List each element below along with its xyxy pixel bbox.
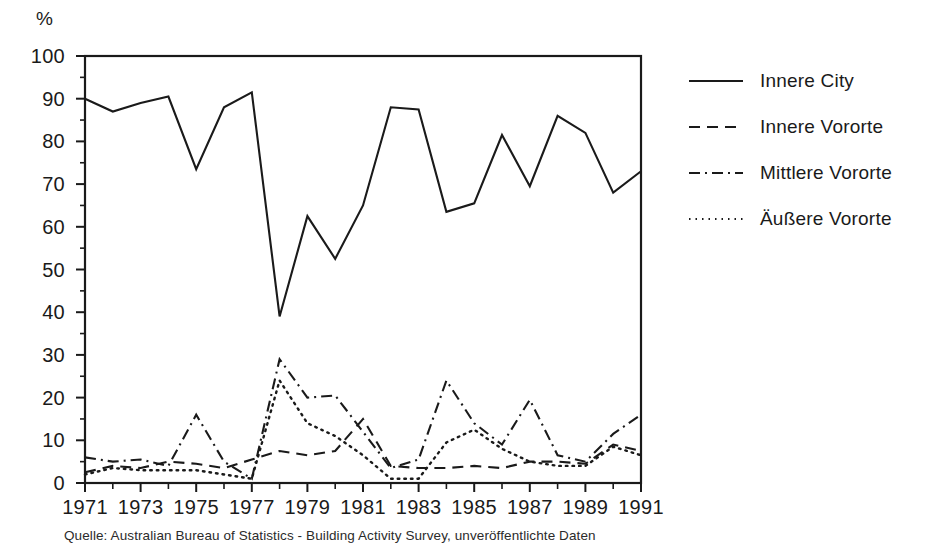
legend-item-aussere-vororte: Äußere Vororte — [688, 196, 924, 242]
y-tick-label: 50 — [9, 258, 65, 281]
chart-legend: Innere City Innere Vororte Mittlere Voro… — [688, 58, 924, 242]
legend-swatch-solid-icon — [688, 74, 744, 88]
legend-swatch-dashed-icon — [688, 120, 744, 134]
legend-item-innere-city: Innere City — [688, 58, 924, 104]
source-note: Quelle: Australian Bureau of Statistics … — [64, 528, 596, 543]
y-tick-label: 10 — [9, 429, 65, 452]
y-tick-label: 60 — [9, 215, 65, 238]
legend-label: Innere Vororte — [760, 116, 883, 138]
y-tick-label: 30 — [9, 343, 65, 366]
legend-swatch-dotted-icon — [688, 212, 744, 226]
legend-item-innere-vororte: Innere Vororte — [688, 104, 924, 150]
legend-item-mittlere-vororte: Mittlere Vororte — [688, 150, 924, 196]
x-tick-label: 1991 — [606, 496, 676, 519]
y-tick-label: 90 — [9, 87, 65, 110]
chart-figure: % 0102030405060708090100 197119731975197… — [0, 0, 929, 554]
y-tick-label: 70 — [9, 173, 65, 196]
legend-label: Innere City — [760, 70, 854, 92]
legend-swatch-dashdot-icon — [688, 166, 744, 180]
series-line-0 — [85, 92, 641, 316]
y-tick-label: 100 — [9, 45, 65, 68]
y-tick-label: 80 — [9, 130, 65, 153]
legend-label: Mittlere Vororte — [760, 162, 892, 184]
y-tick-label: 0 — [9, 472, 65, 495]
legend-label: Äußere Vororte — [760, 208, 892, 230]
y-tick-label: 40 — [9, 301, 65, 324]
y-tick-label: 20 — [9, 386, 65, 409]
